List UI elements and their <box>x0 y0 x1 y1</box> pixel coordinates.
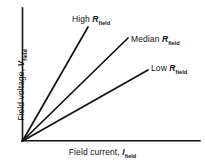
x-axis-label-subscript: field <box>125 153 137 159</box>
x-axis-label: Field current, Ifield <box>0 147 205 159</box>
low-label-text: Low <box>151 63 169 73</box>
y-axis-label-symbol: V <box>16 61 26 67</box>
median-label-subscript: field <box>168 40 180 46</box>
y-axis-label: Field voltage, Vfield <box>16 49 28 121</box>
high-resistance-line <box>23 27 89 141</box>
field-voltage-vs-current-chart: High Rfield Median Rfield Low Rfield Fie… <box>0 0 205 163</box>
high-label-subscript: field <box>99 20 111 26</box>
x-axis-label-text: Field current, <box>69 147 122 157</box>
y-axis-label-wrapper: Field voltage, Vfield <box>10 30 28 140</box>
median-resistance-annotation: Median Rfield <box>131 34 180 46</box>
y-axis-label-subscript: field <box>22 49 28 61</box>
low-resistance-annotation: Low Rfield <box>151 63 187 75</box>
y-axis-label-text: Field voltage, <box>16 66 26 120</box>
high-label-text: High <box>72 14 92 24</box>
high-resistance-annotation: High Rfield <box>72 14 110 26</box>
low-label-subscript: field <box>176 69 188 75</box>
median-label-text: Median <box>131 34 162 44</box>
